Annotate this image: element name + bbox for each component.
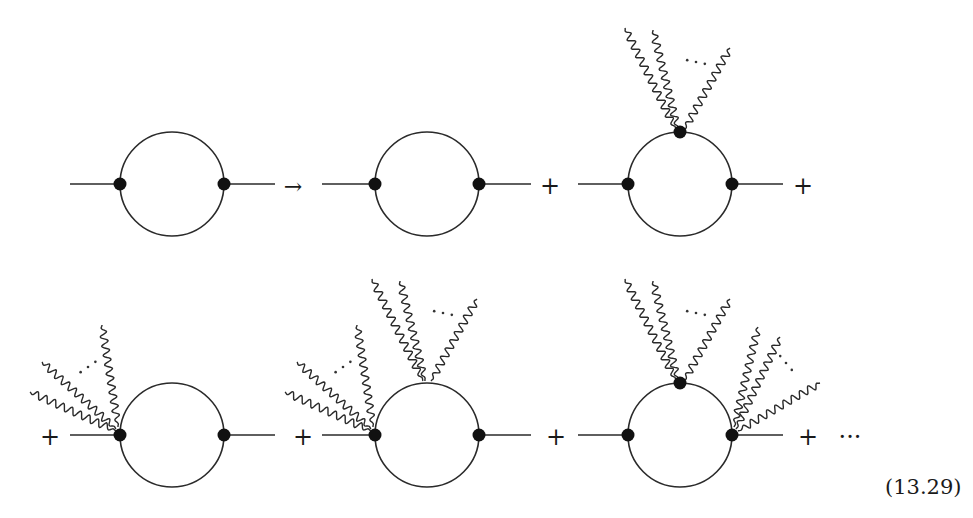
vertex-dot	[473, 429, 486, 442]
ellipsis-dot	[704, 63, 707, 66]
photon-line-icon	[42, 362, 116, 429]
plus-operator: +	[546, 423, 566, 451]
ellipsis-dot	[785, 362, 788, 365]
photon-line-icon	[625, 28, 676, 130]
vertex-dot	[622, 178, 635, 191]
ellipsis-dot	[349, 361, 352, 364]
loop-propagator	[628, 132, 732, 236]
loop-propagator	[120, 383, 224, 487]
photon-line-icon	[100, 325, 119, 427]
vertex-dot	[726, 429, 739, 442]
vertex-dot	[622, 429, 635, 442]
ellipsis-dot	[442, 312, 445, 315]
photon-line-icon	[625, 279, 676, 381]
feynman-diagram-equation: →++++++··· (13.29)	[0, 0, 973, 518]
loop-propagator	[375, 383, 479, 487]
ellipsis-dot	[779, 355, 782, 358]
vertex-dot	[369, 178, 382, 191]
vertex-dot	[114, 178, 127, 191]
ellipsis-dot	[686, 310, 689, 313]
photon-line-icon	[355, 325, 374, 427]
plus-operator: +	[798, 423, 818, 451]
photon-line-icon	[431, 299, 477, 381]
plus-operator: +	[293, 423, 313, 451]
ellipsis-dot	[79, 371, 82, 374]
ellipsis-dot	[790, 369, 793, 372]
vertex-dot	[473, 178, 486, 191]
loop-propagator	[628, 383, 732, 487]
plus-operator: +	[540, 172, 560, 200]
vertex-dot	[726, 178, 739, 191]
vertex-dot	[114, 429, 127, 442]
plus-operator: +	[40, 423, 60, 451]
equation-number: (13.29)	[885, 475, 962, 499]
ellipsis-dot	[451, 314, 454, 317]
loop-propagator	[375, 132, 479, 236]
vertex-dot	[218, 429, 231, 442]
ellipsis-operator: ···	[839, 423, 862, 451]
ellipsis-dot	[433, 310, 436, 313]
ellipsis-dot	[342, 366, 345, 369]
photon-line-icon	[684, 48, 730, 130]
ellipsis-dot	[87, 366, 90, 369]
ellipsis-dot	[94, 361, 97, 364]
vertex-dot	[218, 178, 231, 191]
vertex-dot	[674, 377, 687, 390]
loop-propagator	[120, 132, 224, 236]
vertex-dot	[674, 126, 687, 139]
arrow-operator: →	[284, 174, 302, 199]
photon-line-icon	[684, 299, 730, 381]
ellipsis-dot	[695, 312, 698, 315]
ellipsis-dot	[695, 61, 698, 64]
ellipsis-dot	[704, 314, 707, 317]
vertex-layer	[114, 126, 739, 442]
propagator-layer	[70, 132, 783, 487]
vertex-dot	[369, 429, 382, 442]
ellipsis-dot	[686, 59, 689, 62]
ellipsis-dot	[334, 371, 337, 374]
photon-line-icon	[297, 362, 371, 429]
plus-operator: +	[793, 172, 813, 200]
photon-line-icon	[372, 279, 423, 381]
